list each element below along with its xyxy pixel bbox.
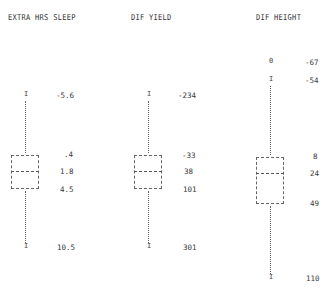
outlier-marker: 0 — [269, 58, 273, 65]
value-outlier: -67 — [305, 58, 319, 67]
value-whisker-high: 110 — [306, 274, 320, 283]
value-q3: 4.5 — [60, 185, 74, 194]
value-whisker-high: 301 — [183, 243, 197, 252]
upper-whisker — [148, 101, 151, 153]
whisker-end-marker: I — [147, 243, 151, 250]
upper-whisker — [270, 86, 273, 155]
plot-title-height: DIF HEIGHT — [256, 13, 301, 22]
whisker-end-marker: I — [269, 76, 273, 83]
plot-title-yield: DIF YIELD — [131, 13, 172, 22]
whisker-end-marker: I — [24, 91, 28, 98]
whisker-end-marker: I — [269, 274, 273, 281]
value-median: 24 — [310, 169, 319, 178]
value-median: 1.8 — [60, 167, 74, 176]
value-whisker-low: -234 — [178, 91, 196, 100]
box-iqr — [134, 155, 162, 189]
lower-whisker — [270, 206, 273, 274]
value-q3: 101 — [183, 185, 197, 194]
value-q1: -33 — [182, 151, 196, 160]
value-whisker-low: -54 — [305, 76, 319, 85]
plot-title-sleep: EXTRA HRS SLEEP — [8, 13, 76, 22]
value-q1: .4 — [64, 150, 73, 159]
median-line — [134, 171, 162, 172]
upper-whisker — [25, 101, 28, 153]
lower-whisker — [25, 191, 28, 243]
box-iqr — [256, 157, 284, 204]
value-whisker-low: -5.6 — [56, 91, 74, 100]
median-line — [11, 171, 39, 172]
value-whisker-high: 10.5 — [57, 243, 75, 252]
median-line — [256, 173, 284, 174]
lower-whisker — [148, 191, 151, 243]
box-iqr — [11, 155, 39, 189]
value-q1: 8 — [313, 152, 318, 161]
whisker-end-marker: I — [147, 91, 151, 98]
value-q3: 49 — [310, 199, 319, 208]
whisker-end-marker: I — [24, 243, 28, 250]
value-median: 38 — [184, 167, 193, 176]
